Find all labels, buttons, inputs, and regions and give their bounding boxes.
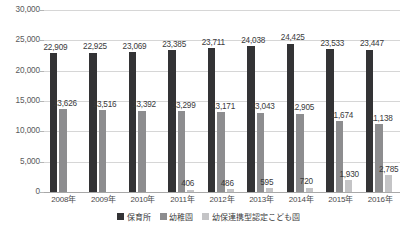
bar-value-label: 595 xyxy=(260,178,273,187)
bar-0[interactable] xyxy=(89,53,97,192)
x-axis-label: 2009年 xyxy=(84,193,124,204)
bar-value-label: 406 xyxy=(181,179,194,188)
bar-value-label: 12,905 xyxy=(290,103,314,112)
bar-chart: 05,00010,00015,00020,00025,00030,000 22,… xyxy=(0,0,417,231)
x-axis: 2008年2009年2010年2011年2012年2013年2014年2015年… xyxy=(44,193,400,205)
legend-label: 幼稚園 xyxy=(169,211,193,222)
y-axis-label: 10,000 xyxy=(0,126,40,135)
bar-value-label: 1,930 xyxy=(339,170,359,179)
bar-2[interactable] xyxy=(345,180,352,192)
legend-item[interactable]: 幼保連携型認定こども園 xyxy=(202,211,300,222)
bar-group: 22,92513,516 xyxy=(84,10,124,192)
bar-value-label: 24,038 xyxy=(241,36,265,45)
x-axis-label: 2008年 xyxy=(44,193,84,204)
legend-label: 保育所 xyxy=(127,211,151,222)
y-axis-label: 5,000 xyxy=(0,157,40,166)
bar-value-label: 11,138 xyxy=(369,114,392,123)
bar-1[interactable] xyxy=(375,124,383,192)
bar-value-label: 2,785 xyxy=(379,165,399,174)
bar-0[interactable] xyxy=(168,50,176,192)
bar-value-label: 13,392 xyxy=(132,100,156,109)
bar-value-label: 23,447 xyxy=(360,39,384,48)
bar-value-label: 23,711 xyxy=(202,38,225,47)
bar-2[interactable] xyxy=(266,188,273,192)
y-axis-label: 0 xyxy=(0,187,40,196)
bar-value-label: 13,626 xyxy=(53,99,77,108)
legend-item[interactable]: 保育所 xyxy=(117,211,151,222)
x-axis-label: 2015年 xyxy=(321,193,361,204)
bar-group: 23,44711,1382,785 xyxy=(360,10,400,192)
bar-value-label: 23,533 xyxy=(320,39,344,48)
chart-legend: 保育所幼稚園幼保連携型認定こども園 xyxy=(0,211,417,222)
y-axis-label: 20,000 xyxy=(0,66,40,75)
bar-group: 22,90913,626 xyxy=(44,10,84,192)
legend-label: 幼保連携型認定こども園 xyxy=(212,211,300,222)
y-axis-label: 15,000 xyxy=(0,96,40,105)
bar-value-label: 486 xyxy=(221,179,234,188)
x-axis-label: 2011年 xyxy=(163,193,203,204)
y-axis-label: 25,000 xyxy=(0,35,40,44)
bar-value-label: 22,909 xyxy=(44,43,68,52)
bar-0[interactable] xyxy=(287,44,295,192)
bar-1[interactable] xyxy=(138,111,146,192)
bar-value-label: 13,171 xyxy=(211,102,235,111)
x-axis-label: 2012年 xyxy=(202,193,242,204)
bar-value-label: 13,043 xyxy=(251,102,275,111)
bar-group: 24,42512,905720 xyxy=(281,10,321,192)
bar-0[interactable] xyxy=(129,52,137,192)
bar-value-label: 23,069 xyxy=(123,42,147,51)
x-axis-label: 2014年 xyxy=(281,193,321,204)
legend-swatch-icon xyxy=(202,213,209,220)
bar-group: 24,03813,043595 xyxy=(242,10,282,192)
legend-swatch-icon xyxy=(160,213,167,220)
bar-0[interactable] xyxy=(208,48,216,192)
bar-value-label: 24,425 xyxy=(281,33,305,42)
bar-2[interactable] xyxy=(187,190,194,192)
y-axis-label: 30,000 xyxy=(0,5,40,14)
bar-group: 23,06913,392 xyxy=(123,10,163,192)
bar-2[interactable] xyxy=(306,188,313,192)
bar-group: 23,38513,299406 xyxy=(163,10,203,192)
legend-item[interactable]: 幼稚園 xyxy=(160,211,194,222)
bar-value-label: 11,674 xyxy=(330,111,353,120)
bar-2[interactable] xyxy=(227,189,234,192)
bar-group: 23,71113,171486 xyxy=(202,10,242,192)
x-axis-label: 2013年 xyxy=(242,193,282,204)
bar-value-label: 22,925 xyxy=(83,42,107,51)
bar-0[interactable] xyxy=(50,53,58,192)
bar-value-label: 13,299 xyxy=(172,101,196,110)
x-axis-label: 2010年 xyxy=(123,193,163,204)
bar-2[interactable] xyxy=(385,175,392,192)
bar-value-label: 13,516 xyxy=(93,100,117,109)
bar-1[interactable] xyxy=(59,109,67,192)
bar-1[interactable] xyxy=(99,110,107,192)
bar-0[interactable] xyxy=(247,46,255,192)
bar-groups: 22,90913,62622,92513,51623,06913,39223,3… xyxy=(44,10,400,192)
bar-group: 23,53311,6741,930 xyxy=(321,10,361,192)
bar-0[interactable] xyxy=(326,49,334,192)
legend-swatch-icon xyxy=(117,213,124,220)
x-axis-label: 2016年 xyxy=(360,193,400,204)
bar-value-label: 720 xyxy=(300,177,313,186)
bar-1[interactable] xyxy=(336,121,344,192)
bar-value-label: 23,385 xyxy=(162,40,186,49)
